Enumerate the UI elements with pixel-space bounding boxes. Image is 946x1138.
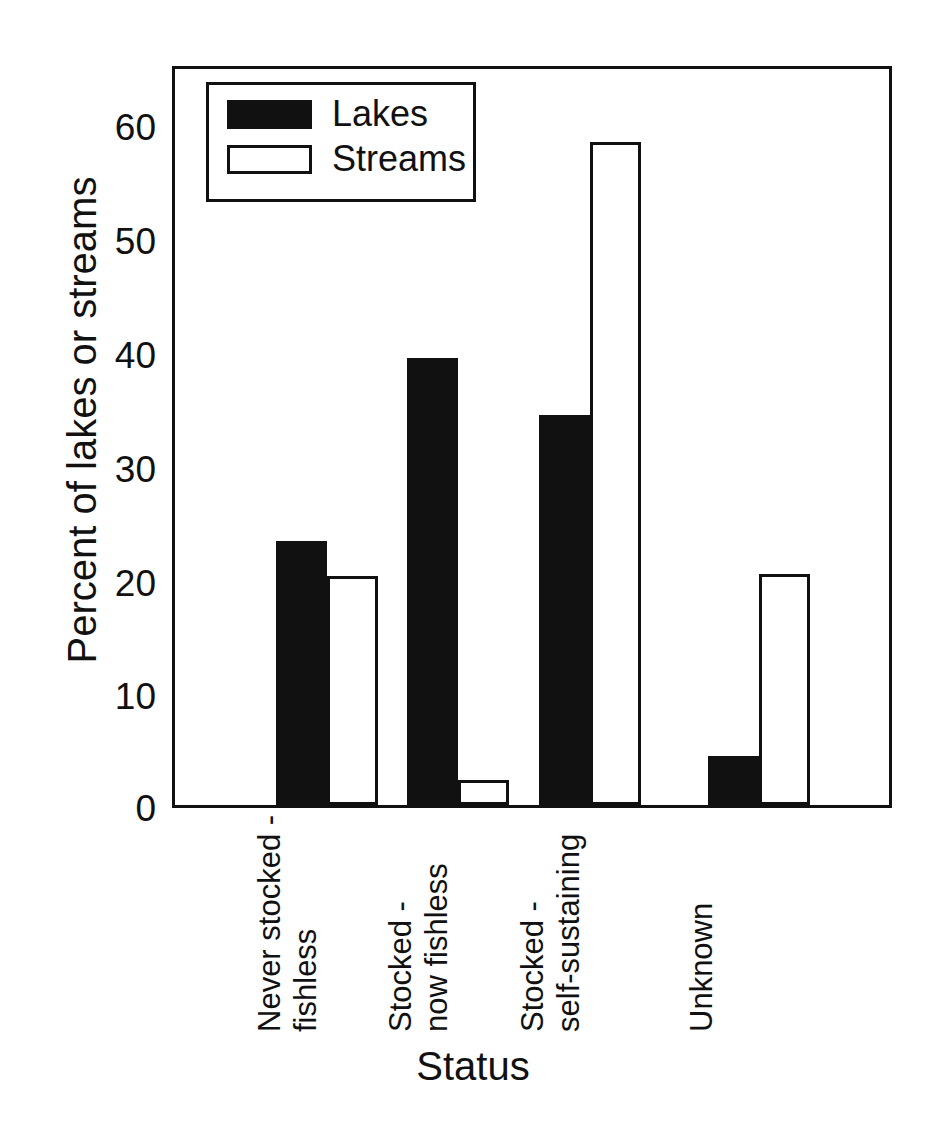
bar-chart-figure: Percent of lakes or streams 60 50 40 30 …	[0, 0, 946, 1138]
y-tick-label-30: 30	[36, 451, 156, 488]
y-tick-label-0: 0	[36, 790, 156, 827]
y-tick-label-10: 10	[36, 678, 156, 715]
legend-label-streams: Streams	[332, 141, 466, 177]
x-tick-label-stocked-now-fishless: Stocked - now fishless	[383, 752, 455, 1032]
plot-area: Lakes Streams	[172, 66, 892, 808]
chart-legend: Lakes Streams	[206, 82, 476, 202]
y-tick-label-20: 20	[36, 565, 156, 602]
legend-entry-lakes: Lakes	[227, 97, 428, 131]
y-tick-label-40: 40	[36, 337, 156, 374]
legend-label-lakes: Lakes	[332, 96, 428, 132]
x-tick-label-stocked-self-sustaining: Stocked - self-sustaining	[515, 752, 587, 1032]
bar-lakes-stocked-now-fishless	[407, 358, 458, 805]
bar-streams-stocked-now-fishless	[458, 780, 509, 805]
bar-streams-unknown	[759, 574, 810, 805]
legend-swatch-lakes-icon	[227, 100, 312, 129]
bar-lakes-stocked-self-sustaining	[539, 415, 590, 805]
bar-streams-stocked-self-sustaining	[590, 142, 641, 805]
x-tick-label-unknown: Unknown	[684, 752, 720, 1032]
legend-entry-streams: Streams	[227, 142, 466, 176]
y-tick-label-60: 60	[36, 109, 156, 146]
x-axis-title: Status	[0, 1046, 946, 1086]
legend-swatch-streams-icon	[227, 145, 312, 174]
y-axis-title: Percent of lakes or streams	[62, 110, 102, 730]
bar-streams-never-stocked-fishless	[327, 576, 378, 805]
y-tick-label-50: 50	[36, 223, 156, 260]
x-tick-label-never-stocked-fishless: Never stocked - fishless	[252, 752, 324, 1032]
